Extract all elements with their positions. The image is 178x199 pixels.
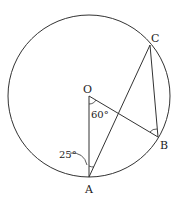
label-b: B	[160, 139, 168, 152]
angle-arc-o	[89, 100, 96, 104]
angle-label-o: 60°	[91, 109, 109, 120]
angle-arc-b	[150, 129, 157, 132]
label-c: C	[151, 32, 159, 45]
angle-arc-a	[89, 166, 94, 167]
angle-label-a: 25°	[59, 149, 77, 160]
label-o: O	[83, 83, 92, 96]
geometry-diagram: O A B C 60° 25°	[0, 0, 178, 199]
label-a: A	[84, 183, 94, 196]
segment-bc	[150, 45, 158, 137]
